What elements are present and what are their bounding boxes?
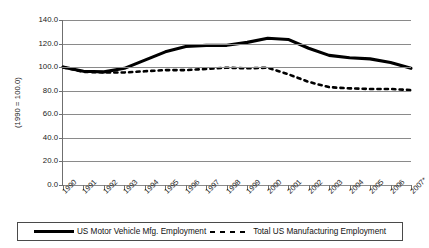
y-tick-label: 80.0: [24, 87, 58, 95]
y-axis-tick-labels: 0.020.040.060.080.0100.0120.0140.0: [20, 0, 58, 248]
y-tick-mark: [59, 67, 63, 68]
legend-entry-1: US Motor Vehicle Mfg. Employment: [32, 227, 208, 236]
gridline: [63, 91, 411, 92]
y-tick-label: 40.0: [24, 134, 58, 142]
gridline: [63, 20, 411, 21]
y-tick-label: 0.0: [24, 181, 58, 189]
legend-label: US Motor Vehicle Mfg. Employment: [77, 227, 206, 236]
legend-label: Total US Manufacturing Employment: [253, 227, 386, 236]
chart-legend: US Motor Vehicle Mfg. EmploymentTotal US…: [17, 222, 403, 241]
gridline: [63, 67, 411, 68]
x-axis-tick-labels: 1990199119921993199419951996199719981999…: [63, 190, 423, 220]
y-tick-label: 120.0: [24, 40, 58, 48]
x-tick-label: 2007*: [409, 176, 429, 196]
legend-entry-2: Total US Manufacturing Employment: [208, 227, 388, 236]
gridline: [63, 161, 411, 162]
gridline: [63, 44, 411, 45]
y-tick-label: 100.0: [24, 63, 58, 71]
y-tick-label: 60.0: [24, 110, 58, 118]
legend-dashed-swatch-icon: [210, 227, 250, 236]
y-tick-mark: [59, 138, 63, 139]
y-tick-mark: [59, 114, 63, 115]
y-tick-label: 20.0: [24, 157, 58, 165]
plot-area: [63, 20, 411, 185]
y-tick-mark: [59, 161, 63, 162]
legend-solid-swatch-icon: [34, 227, 74, 236]
y-tick-mark: [59, 44, 63, 45]
y-tick-label: 140.0: [24, 16, 58, 24]
series-lines: [63, 20, 411, 185]
y-tick-mark: [59, 91, 63, 92]
gridline: [63, 138, 411, 139]
gridline: [63, 114, 411, 115]
y-tick-mark: [59, 20, 63, 21]
